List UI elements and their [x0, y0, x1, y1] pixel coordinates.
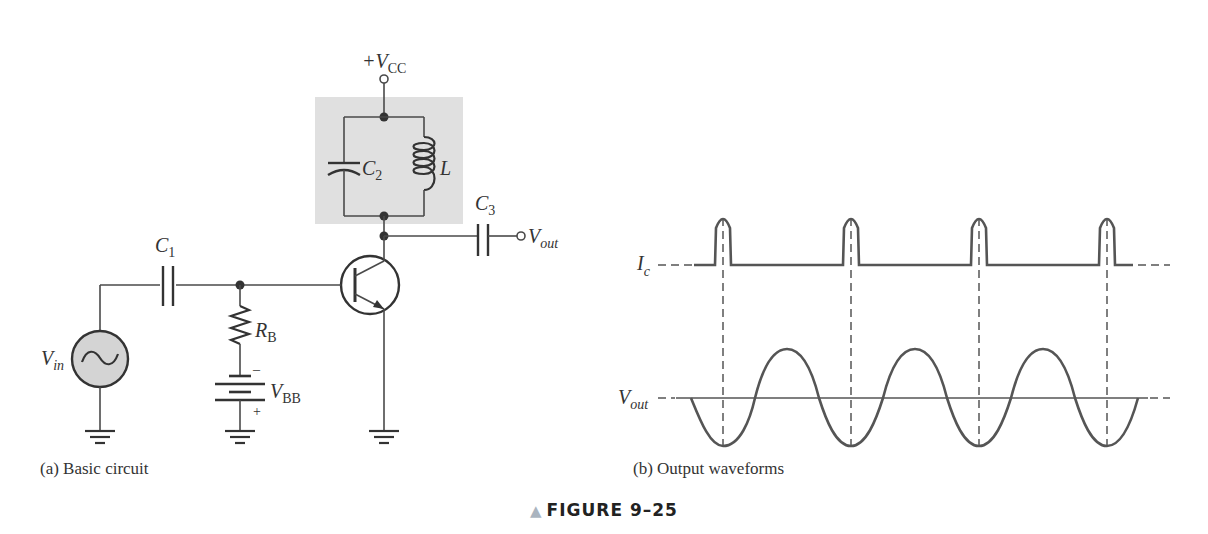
ac-source-vin: Vin [41, 331, 128, 430]
circuit-and-waveforms: +VCC C2 L [0, 0, 1208, 534]
capacitor-c1: C1 [155, 234, 175, 306]
vout-terminal [517, 232, 525, 240]
svg-text:–: – [252, 362, 261, 377]
figure-title-text: FIGURE 9–25 [547, 500, 678, 520]
vout-label: Vout [618, 386, 649, 412]
ic-label: Ic [636, 252, 651, 279]
basic-circuit: +VCC C2 L [41, 50, 559, 443]
svg-text:+: + [253, 404, 261, 419]
svg-text:VBB: VBB [270, 380, 301, 406]
vcc-terminal [380, 75, 388, 83]
vcc-label: +VCC [362, 50, 406, 76]
ground-icon [225, 431, 255, 443]
ground-icon [369, 431, 399, 443]
ground-icon [85, 431, 115, 443]
svg-text:C1: C1 [155, 234, 175, 260]
ic-trace [694, 219, 1133, 265]
svg-text:L: L [439, 157, 451, 179]
waveforms-caption: (b) Output waveforms [633, 459, 784, 479]
output-waveforms: Ic Vout [618, 218, 1170, 446]
figure-title: ▲FIGURE 9–25 [0, 500, 1208, 520]
npn-transistor [341, 236, 399, 430]
battery-vbb: – + VBB [215, 362, 301, 430]
svg-text:RB: RB [254, 319, 277, 345]
svg-text:Vin: Vin [41, 347, 64, 373]
circuit-caption: (a) Basic circuit [40, 459, 149, 479]
vout-terminal-label: Vout [528, 225, 559, 251]
svg-text:C3: C3 [475, 192, 495, 218]
triangle-up-icon: ▲ [530, 502, 543, 520]
